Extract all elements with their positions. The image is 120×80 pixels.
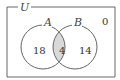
a-only-count: 18 bbox=[33, 45, 46, 56]
intersection-count: 4 bbox=[59, 45, 65, 56]
venn-diagram: U A B 0 18 4 14 bbox=[0, 0, 120, 80]
set-b-label: B bbox=[73, 16, 82, 29]
outside-count: 0 bbox=[102, 16, 108, 27]
universe-label: U bbox=[20, 1, 30, 14]
set-a-label: A bbox=[43, 16, 52, 29]
b-only-count: 14 bbox=[79, 45, 92, 56]
